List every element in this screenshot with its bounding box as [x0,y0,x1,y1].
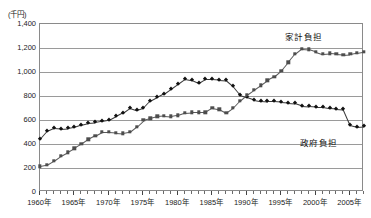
data-point-marker [335,52,338,55]
x-axis-tick-label: 1980年 [165,196,189,207]
data-point-marker [238,99,241,102]
x-axis-tick-minor [218,191,219,194]
data-point-marker [128,130,131,133]
data-point-marker [87,137,90,140]
data-point-marker [52,159,55,162]
y-axis-tick-label: 400 [2,139,36,148]
data-point-marker [203,77,208,82]
y-axis-tick-label: 800 [2,91,36,100]
x-axis-tick-major [211,191,212,195]
x-axis-tick-label: 1965年 [62,196,86,207]
x-axis-tick-minor [239,191,240,194]
data-point-marker [135,125,138,128]
x-axis-tick-label: 1990年 [234,196,258,207]
x-axis-tick-minor [260,191,261,194]
data-point-marker [231,106,234,109]
data-point-marker [224,111,227,114]
data-point-marker [266,79,269,82]
data-point-marker [286,61,289,64]
data-point-marker [86,121,91,126]
y-axis: 1,4001,2001,0008006004002000 [0,23,36,191]
series-label-household: 家計負担 [285,30,322,42]
y-axis-tick-label: 1,200 [2,43,36,52]
y-axis-tick-label: 200 [2,163,36,172]
x-axis-tick-minor [225,191,226,194]
data-point-marker [320,104,325,109]
data-point-marker [218,107,221,110]
x-axis-tick-minor [266,191,267,194]
data-point-marker [183,111,186,114]
x-axis-tick-major [349,191,350,195]
data-point-marker [196,81,201,86]
x-axis-tick-minor [80,191,81,194]
data-point-marker [300,47,303,50]
data-point-marker [58,127,63,132]
data-point-marker [252,88,255,91]
x-axis-tick-minor [204,191,205,194]
data-point-marker [93,134,96,137]
x-axis-tick-minor [253,191,254,194]
x-axis-tick-minor [156,191,157,194]
x-axis-tick-minor [184,191,185,194]
data-point-marker [189,78,194,83]
data-point-marker [65,126,70,131]
data-point-marker [155,95,160,100]
x-axis-tick-major [246,191,247,195]
data-point-marker [259,83,262,86]
x-axis-tick-minor [191,191,192,194]
data-point-marker [211,106,214,109]
x-axis-tick-major [315,191,316,195]
gridline [40,48,362,49]
x-axis-tick-minor [232,191,233,194]
x-axis-tick-minor [46,191,47,194]
x-axis-tick-minor [294,191,295,194]
data-point-marker [107,130,110,133]
data-point-marker [362,124,367,129]
data-point-marker [314,50,317,53]
x-axis-tick-minor [308,191,309,194]
data-point-marker [355,51,358,54]
data-point-marker [190,110,193,113]
x-axis-tick-label: 1975年 [131,196,155,207]
data-point-marker [197,110,200,113]
x-axis-tick-label: 2000年 [303,196,327,207]
data-point-marker [38,164,41,167]
x-axis-tick-minor [149,191,150,194]
x-axis-tick-minor [170,191,171,194]
data-point-marker [73,146,76,149]
data-point-marker [280,69,283,72]
data-point-marker [169,115,172,118]
x-axis-tick-minor [342,191,343,194]
x-axis-tick-minor [60,191,61,194]
data-point-marker [321,52,324,55]
data-point-marker [45,163,48,166]
data-point-marker [258,98,263,103]
data-point-marker [273,75,276,78]
x-axis-tick-major [142,191,143,195]
chart-container: (千円) 1,4001,2001,0008006004002000 1960年1… [0,0,371,218]
gridline [40,72,362,73]
data-point-marker [134,108,139,113]
x-axis-tick-minor [129,191,130,194]
data-point-marker [279,100,284,105]
data-point-marker [341,107,346,112]
data-point-marker [38,137,43,142]
series-label-government: 政府負担 [300,136,337,148]
x-axis-tick-label: 1970年 [96,196,120,207]
x-axis-tick-minor [273,191,274,194]
data-point-marker [306,104,311,109]
x-axis-tick-minor [136,191,137,194]
data-point-marker [51,126,56,131]
x-axis-tick-minor [122,191,123,194]
x-axis-tick-major [280,191,281,195]
data-point-marker [155,115,158,118]
data-point-marker [327,106,332,111]
x-axis-tick-minor [356,191,357,194]
y-axis-unit-label: (千円) [8,8,26,19]
x-axis-tick-minor [363,191,364,194]
data-point-marker [355,124,360,129]
x-axis-tick-minor [67,191,68,194]
x-axis-tick-label: 1995年 [268,196,292,207]
data-point-marker [162,114,165,117]
x-axis-tick-minor [87,191,88,194]
